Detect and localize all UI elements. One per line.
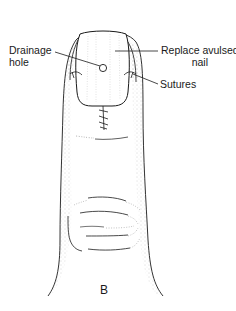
label-replace-line2: nail	[161, 56, 236, 68]
panel-label: B	[100, 284, 108, 296]
label-sutures: Sutures	[160, 78, 196, 90]
label-replace-avulsed-nail: Replace avulsed nail	[161, 44, 236, 68]
dip-crease	[76, 136, 128, 139]
label-drainage-hole: Drainage hole	[9, 44, 52, 68]
pip-creases	[68, 197, 140, 251]
label-replace-line1: Replace avulsed	[161, 44, 236, 56]
label-drainage-line2: hole	[9, 56, 52, 68]
label-drainage-line1: Drainage	[9, 44, 52, 56]
drainage-hole-marker	[99, 64, 106, 71]
nail-bed-sutures	[99, 106, 108, 130]
